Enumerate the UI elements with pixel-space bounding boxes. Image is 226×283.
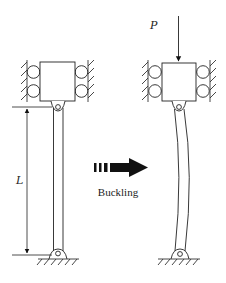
straight-column-panel: L bbox=[12, 60, 94, 265]
sliding-block-2 bbox=[162, 63, 196, 101]
left-wall-support-2 bbox=[142, 60, 148, 102]
bottom-pin-support-2 bbox=[171, 249, 189, 259]
straight-column bbox=[54, 108, 64, 252]
buckled-column-panel: P bbox=[142, 16, 216, 265]
bottom-pin-support bbox=[49, 249, 67, 259]
buckling-label: Buckling bbox=[98, 186, 139, 198]
buckled-column bbox=[175, 109, 190, 251]
right-wall-support-2 bbox=[210, 60, 216, 102]
sliding-block bbox=[40, 62, 75, 101]
length-label: L bbox=[15, 174, 23, 187]
ground-hatch bbox=[37, 259, 79, 265]
left-wall-support bbox=[21, 60, 27, 102]
buckling-arrow bbox=[94, 158, 148, 177]
load-label: P bbox=[149, 19, 158, 32]
ground-hatch-2 bbox=[158, 259, 200, 265]
buckling-diagram: L Buckling P bbox=[0, 0, 226, 283]
right-wall-support bbox=[88, 60, 94, 102]
